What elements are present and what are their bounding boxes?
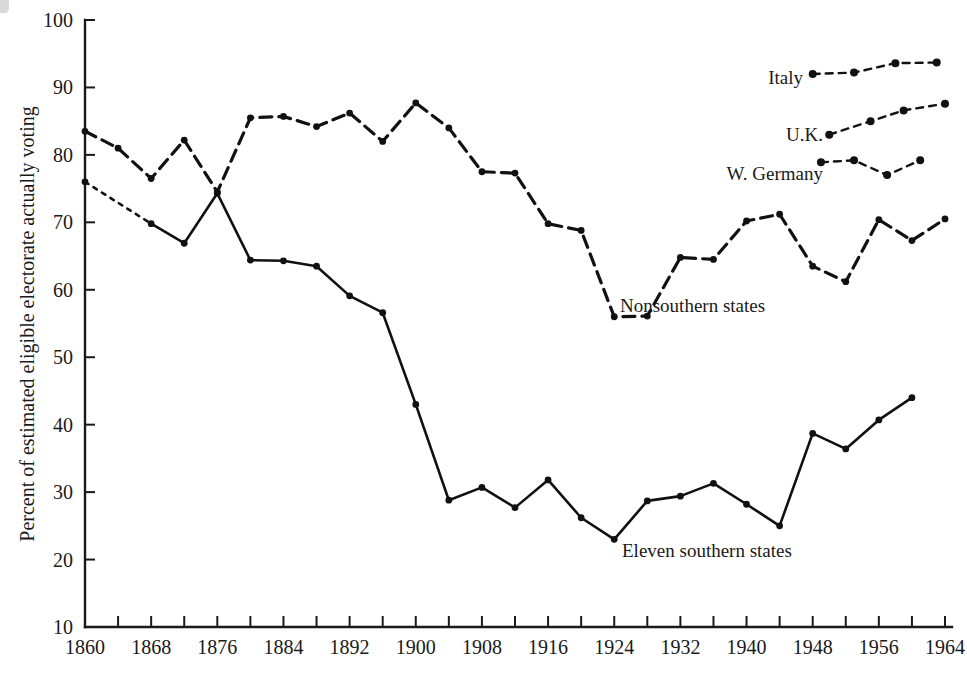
data-point [776,211,783,218]
data-point [412,100,419,107]
data-point [313,123,320,130]
y-tick-label: 80 [53,144,73,166]
data-point [445,497,452,504]
series-label-wgermany: W. Germany [727,163,824,184]
y-tick-label: 90 [53,76,73,98]
x-tick-label: 1892 [330,636,370,658]
data-point [710,256,717,263]
data-point [379,309,386,316]
series-lead-dotted-segment [85,182,151,224]
data-point [909,237,916,244]
y-tick-label: 40 [53,414,73,436]
x-tick-label: 1932 [660,636,700,658]
x-tick-label: 1868 [131,636,171,658]
data-point [280,113,287,120]
data-point [891,59,899,67]
y-tick-label: 100 [43,9,73,31]
x-tick-label: 1924 [594,636,634,658]
data-point [115,145,122,152]
series-label-southern: Eleven southern states [622,540,792,561]
series-label-italy: Italy [768,67,803,88]
data-point [611,313,618,320]
data-point [412,401,419,408]
data-point [181,240,188,247]
data-point [743,501,750,508]
data-point [512,170,519,177]
data-point [346,292,353,299]
data-point [611,536,618,543]
data-point [776,522,783,529]
series-label-uk: U.K. [786,124,823,145]
x-tick-group [85,616,945,627]
data-point [181,137,188,144]
data-point [710,480,717,487]
series-path [829,104,945,135]
y-tick-label-group: 100908070605040302010 [43,9,73,638]
data-point [809,430,816,437]
data-point [809,70,817,78]
x-tick-label: 1956 [859,636,899,658]
data-point [850,156,858,164]
x-tick-label: 1908 [462,636,502,658]
chart-figure: 100908070605040302010 186018681876188418… [0,0,967,674]
data-point [644,497,651,504]
data-point [479,484,486,491]
axes-group [85,20,952,627]
x-tick-label-group: 1860186818761884189219001908191619241932… [65,636,965,658]
line-chart-canvas: 100908070605040302010 186018681876188418… [0,0,967,674]
series-w-germany [817,156,924,179]
data-point [82,128,89,135]
data-point [578,514,585,521]
series-path [821,160,920,175]
data-point [247,114,254,121]
series-label-nonsouthern: Nonsouthern states [620,295,765,316]
series-path [813,62,937,73]
data-point [875,417,882,424]
data-point [313,263,320,270]
data-point [875,216,882,223]
data-point [941,100,949,108]
data-point [842,278,849,285]
data-point [883,171,891,179]
data-point [942,216,949,223]
data-point [809,263,816,270]
series-path [151,193,912,539]
data-point [148,175,155,182]
data-point [578,227,585,234]
y-tick-label: 20 [53,549,73,571]
data-point [900,106,908,114]
y-axis-title: Percent of estimated eligible electorate… [16,106,39,541]
data-point [916,156,924,164]
x-tick-label: 1860 [65,636,105,658]
data-point [850,69,858,77]
data-point [933,58,941,66]
series-italy [809,58,941,77]
data-point [545,220,552,227]
x-tick-label: 1940 [727,636,767,658]
data-point [148,220,155,227]
data-point [247,257,254,264]
data-point [512,504,519,511]
data-point [479,168,486,175]
data-point [346,110,353,117]
data-point [214,190,221,197]
y-tick-group [85,20,95,627]
x-tick-label: 1876 [197,636,237,658]
data-point [743,218,750,225]
data-point [379,138,386,145]
y-tick-label: 30 [53,481,73,503]
data-point [82,178,89,185]
y-tick-label: 60 [53,279,73,301]
data-point [867,117,875,125]
x-tick-label: 1948 [793,636,833,658]
data-point [677,254,684,261]
y-tick-label: 70 [53,211,73,233]
data-point [280,257,287,264]
x-tick-label: 1916 [528,636,568,658]
x-tick-label: 1884 [263,636,303,658]
data-point [842,446,849,453]
series-u-k [825,100,949,139]
data-point [545,477,552,484]
data-point [909,394,916,401]
x-tick-label: 1964 [925,636,965,658]
